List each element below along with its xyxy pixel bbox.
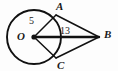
segment-oa-radius	[34, 15, 56, 37]
measure-label-hypotenuse: 13	[60, 26, 70, 36]
segment-cb-tangent	[56, 37, 99, 58]
center-point-dot	[31, 34, 36, 39]
vertex-label-a: A	[56, 1, 63, 12]
vertex-label-o: O	[17, 31, 25, 42]
vertex-label-b: B	[104, 29, 111, 40]
segment-oc-radius	[34, 37, 56, 58]
measure-label-radius: 5	[29, 16, 34, 26]
geometry-figure: A B C O 5 13	[0, 0, 118, 71]
vertex-label-c: C	[57, 60, 64, 71]
